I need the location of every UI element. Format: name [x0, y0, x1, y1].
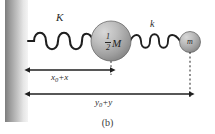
one-half-fraction: 1 2: [105, 33, 111, 52]
dimension-y-var: y: [108, 97, 112, 107]
fixed-wall: [5, 0, 28, 122]
fraction-denominator: 2: [105, 43, 111, 52]
physics-diagram-figure: K k 1 2 M m x0+x y0+y (b): [0, 0, 215, 134]
diagram-canvas: [0, 0, 215, 134]
spring-k: [130, 34, 180, 48]
mass-M-label: 1 2 M: [98, 33, 128, 52]
spring-constant-k-label: k: [150, 19, 154, 29]
dimension-y-label: y0+y: [95, 98, 112, 108]
dimension-x-label: x0+x: [51, 73, 68, 83]
fraction-numerator: 1: [105, 33, 111, 43]
mass-m-symbol: m: [181, 37, 199, 46]
mass-M-symbol: M: [112, 37, 121, 49]
spring-K: [28, 33, 93, 50]
dimension-x-var: x: [64, 72, 68, 82]
spring-constant-K-label: K: [56, 12, 63, 23]
figure-caption: (b): [0, 117, 215, 128]
